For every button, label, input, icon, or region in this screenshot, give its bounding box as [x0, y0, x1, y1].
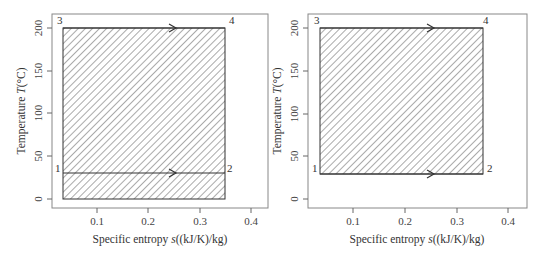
y-axis — [303, 28, 308, 199]
y-axis — [47, 28, 52, 199]
x-tick-label: 0.3 — [193, 215, 207, 227]
y-tick-label: 150 — [32, 62, 44, 79]
x-tick-label: 0.4 — [244, 215, 258, 227]
y-tick-label: 50 — [288, 150, 300, 162]
point-label-3: 3 — [314, 14, 320, 26]
x-axis — [353, 208, 508, 213]
point-label-4: 4 — [229, 14, 235, 26]
hatched-area — [320, 28, 483, 174]
y-tick-label: 50 — [32, 150, 44, 162]
x-axis-title: Specific entropy s((kJ/K)/kg) — [350, 233, 485, 246]
point-label-3: 3 — [57, 14, 63, 26]
left-chart: 0 50 100 150 200 0.1 0.2 0.3 0.4 3 4 1 2… — [15, 14, 268, 246]
y-tick-label: 0 — [288, 196, 300, 202]
x-tick-label: 0.1 — [346, 215, 360, 227]
y-axis-title: Temperature T(°C) — [15, 67, 28, 154]
y-tick-label: 100 — [32, 104, 44, 121]
y-axis-title: Temperature T(°C) — [271, 67, 284, 154]
figure: 0 50 100 150 200 0.1 0.2 0.3 0.4 3 4 1 2… — [0, 0, 547, 258]
point-label-2: 2 — [227, 162, 233, 174]
x-axis-title: Specific entropy s((kJ/K)/kg) — [93, 233, 228, 246]
x-tick-label: 0.2 — [398, 215, 412, 227]
point-label-2: 2 — [487, 162, 493, 174]
point-label-4: 4 — [483, 14, 489, 26]
y-tick-label: 200 — [288, 19, 300, 36]
x-tick-label: 0.1 — [90, 215, 104, 227]
x-axis — [97, 208, 251, 213]
right-chart: 0 50 100 150 200 0.1 0.2 0.3 0.4 3 4 1 2… — [271, 14, 527, 246]
x-tick-label: 0.2 — [141, 215, 155, 227]
y-tick-label: 150 — [288, 62, 300, 79]
point-label-1: 1 — [55, 162, 61, 174]
y-tick-label: 200 — [32, 19, 44, 36]
y-tick-label: 100 — [288, 105, 300, 122]
x-tick-label: 0.3 — [450, 215, 464, 227]
y-tick-label: 0 — [32, 196, 44, 202]
point-label-1: 1 — [312, 162, 318, 174]
x-tick-label: 0.4 — [501, 215, 515, 227]
